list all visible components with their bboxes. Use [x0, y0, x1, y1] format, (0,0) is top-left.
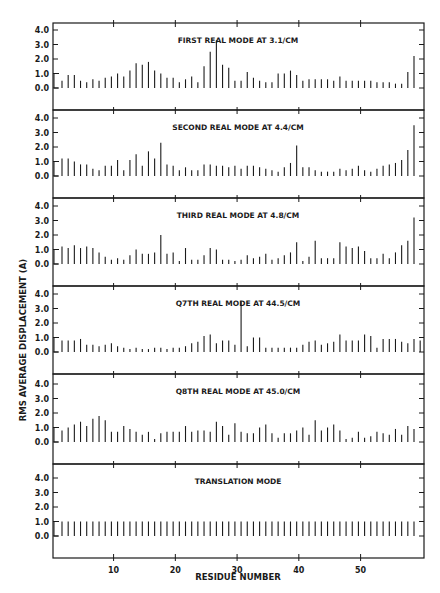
y-tick-label: 3.0	[35, 489, 50, 498]
x-tick-label: 20	[170, 566, 182, 575]
panel-1: 0.01.02.03.04.0FIRST REAL MODE AT 3.1/CM	[35, 20, 424, 110]
y-tick-label: 0.0	[35, 532, 50, 541]
y-tick-label: 4.0	[35, 290, 50, 299]
y-tick-label: 2.0	[35, 143, 50, 152]
y-tick-label: 4.0	[35, 474, 50, 483]
modes-figure: 0.01.02.03.04.0FIRST REAL MODE AT 3.1/CM…	[0, 0, 440, 593]
x-axis-label: RESIDUE NUMBER	[195, 572, 281, 582]
y-tick-label: 1.0	[35, 334, 50, 343]
panel-title: TRANSLATION MODE	[195, 477, 282, 486]
y-tick-label: 1.0	[35, 246, 50, 255]
y-tick-label: 1.0	[35, 518, 50, 527]
y-tick-label: 0.0	[35, 260, 50, 269]
x-tick-label: 10	[108, 566, 120, 575]
panel-title: FIRST REAL MODE AT 3.1/CM	[178, 36, 299, 45]
y-tick-label: 0.0	[35, 84, 50, 93]
y-tick-label: 0.0	[35, 438, 50, 447]
panel-6: 0.01.02.03.04.0TRANSLATION MODE	[35, 461, 424, 558]
y-tick-label: 1.0	[35, 158, 50, 167]
y-tick-label: 3.0	[35, 129, 50, 138]
x-tick-label: 40	[293, 566, 305, 575]
x-tick-label: 50	[355, 566, 367, 575]
y-tick-label: 2.0	[35, 55, 50, 64]
panel-4: 0.01.02.03.04.0Q7TH REAL MODE AT 44.5/CM	[35, 283, 424, 374]
y-tick-label: 3.0	[35, 217, 50, 226]
panel-title: Q7TH REAL MODE AT 44.5/CM	[176, 299, 301, 308]
y-tick-label: 2.0	[35, 319, 50, 328]
y-tick-label: 2.0	[35, 409, 50, 418]
y-tick-label: 3.0	[35, 395, 50, 404]
panel-2: 0.01.02.03.04.0SECOND REAL MODE AT 4.4/C…	[35, 107, 424, 198]
y-tick-label: 2.0	[35, 231, 50, 240]
panel-title: Q8TH REAL MODE AT 45.0/CM	[176, 387, 301, 396]
y-tick-label: 0.0	[35, 348, 50, 357]
y-axis-label: RMS AVERAGE DISPLACEMENT (A)	[18, 259, 28, 422]
y-tick-label: 3.0	[35, 305, 50, 314]
stacked-bar-charts: 0.01.02.03.04.0FIRST REAL MODE AT 3.1/CM…	[0, 0, 440, 593]
y-tick-label: 4.0	[35, 114, 50, 123]
y-tick-label: 4.0	[35, 202, 50, 211]
panel-title: SECOND REAL MODE AT 4.4/CM	[172, 123, 303, 132]
y-tick-label: 4.0	[35, 380, 50, 389]
y-tick-label: 1.0	[35, 424, 50, 433]
panel-5: 0.01.02.03.04.0Q8TH REAL MODE AT 45.0/CM	[35, 371, 424, 464]
y-tick-label: 3.0	[35, 41, 50, 50]
y-tick-label: 0.0	[35, 172, 50, 181]
y-tick-label: 4.0	[35, 26, 50, 35]
y-tick-label: 2.0	[35, 503, 50, 512]
panel-3: 0.01.02.03.04.0THIRD REAL MODE AT 4.8/CM	[35, 195, 424, 286]
y-tick-label: 1.0	[35, 70, 50, 79]
chart-panels: 0.01.02.03.04.0FIRST REAL MODE AT 3.1/CM…	[35, 20, 424, 558]
panel-title: THIRD REAL MODE AT 4.8/CM	[177, 211, 300, 220]
